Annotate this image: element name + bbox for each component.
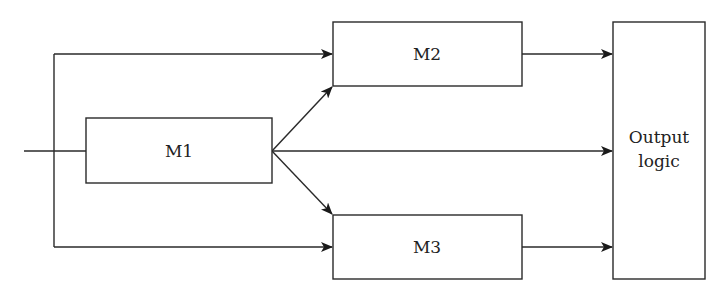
block-output-logic: Output logic xyxy=(613,22,705,279)
block-diagram: M1 M2 M3 Output logic xyxy=(0,0,723,295)
block-m1: M1 xyxy=(86,118,272,183)
block-m2-label: M2 xyxy=(413,44,441,64)
block-m2: M2 xyxy=(333,22,522,86)
block-m1-label: M1 xyxy=(165,141,193,161)
block-m3-label: M3 xyxy=(413,237,441,257)
wire-m1-to-m3 xyxy=(272,151,332,214)
wire-m1-to-m2 xyxy=(272,87,332,151)
output-logic-label-line2: logic xyxy=(638,151,680,171)
output-logic-label-line1: Output xyxy=(629,127,690,147)
block-m3: M3 xyxy=(333,215,522,279)
